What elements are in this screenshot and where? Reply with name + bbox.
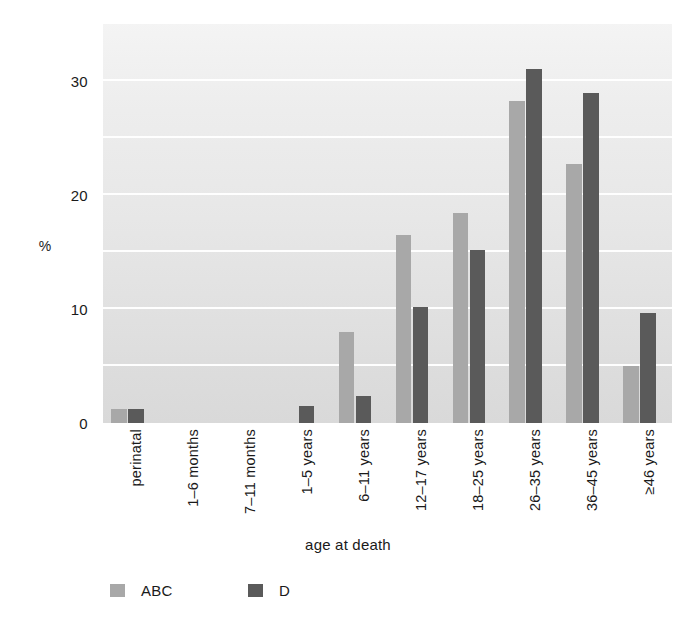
bar-group <box>501 22 558 423</box>
bar-d-4 <box>356 396 372 423</box>
bar-group <box>331 22 388 423</box>
y-tick-label: 10 <box>71 301 88 318</box>
bar-group <box>160 22 217 423</box>
bar-abc-7 <box>509 101 525 423</box>
bar-abc-0 <box>111 409 127 423</box>
bar-abc-8 <box>566 164 582 423</box>
bar-abc-6 <box>453 213 469 423</box>
bar-abc-9 <box>623 366 639 423</box>
bar-group <box>615 22 672 423</box>
y-tick-label: 20 <box>71 187 88 204</box>
bar-d-7 <box>526 69 542 423</box>
y-axis-tick-labels: 0102030 <box>48 22 96 423</box>
legend-label: D <box>279 582 290 599</box>
legend-swatch-icon <box>110 584 125 597</box>
x-tick-label: 26–35 years <box>527 429 543 511</box>
x-tick-label: 7–11 months <box>242 429 258 514</box>
x-axis-tick-labels: perinatal1–6 months7–11 months1–5 years6… <box>103 423 672 533</box>
x-tick-label: perinatal <box>128 429 144 486</box>
bar-d-6 <box>470 250 486 423</box>
x-tick-label: ≥46 years <box>641 429 657 494</box>
y-tick-label: 30 <box>71 73 88 90</box>
plot-area <box>103 22 672 423</box>
bar-abc-5 <box>396 235 412 423</box>
x-tick-label: 1–5 years <box>299 429 315 494</box>
bar-group <box>217 22 274 423</box>
bar-d-5 <box>413 307 429 423</box>
legend-swatch-icon <box>248 584 263 597</box>
bars-layer <box>103 22 672 423</box>
x-tick-label: 18–25 years <box>470 429 486 511</box>
x-tick-label: 36–45 years <box>584 429 600 511</box>
y-tick-label: 0 <box>79 415 88 432</box>
bar-d-0 <box>128 409 144 423</box>
bar-group <box>444 22 501 423</box>
bar-group <box>558 22 615 423</box>
x-tick-label: 12–17 years <box>413 429 429 511</box>
bar-chart-figure: % 0102030 perinatal1–6 months7–11 months… <box>0 0 696 622</box>
x-tick-label: 1–6 months <box>185 429 201 507</box>
bar-abc-4 <box>339 332 355 423</box>
bar-d-9 <box>640 313 656 424</box>
legend-item-abc[interactable]: ABC <box>110 580 173 600</box>
x-tick-label: 6–11 years <box>356 429 372 502</box>
bar-group <box>274 22 331 423</box>
bar-d-3 <box>299 406 315 423</box>
legend-item-d[interactable]: D <box>248 580 290 600</box>
bar-d-8 <box>583 93 599 423</box>
bar-group <box>103 22 160 423</box>
bar-group <box>388 22 445 423</box>
x-axis-title: age at death <box>0 536 696 553</box>
legend-label: ABC <box>141 582 173 599</box>
